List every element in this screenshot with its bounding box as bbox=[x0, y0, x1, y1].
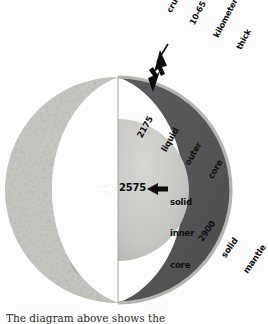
inner-core-value: 2575 bbox=[119, 183, 146, 194]
inner-core-label-line-1: solid bbox=[170, 197, 194, 207]
crust-label-line-4: thick bbox=[234, 5, 264, 51]
crust-label-line-3: kilometers bbox=[211, 0, 241, 39]
radius-arrow-icon bbox=[99, 183, 117, 195]
planet-sphere bbox=[5, 77, 231, 303]
inner-core-label-line-3: core bbox=[170, 260, 194, 270]
crust-arrow-upper-icon bbox=[154, 50, 167, 76]
mantle-label-line-2: solid bbox=[219, 227, 245, 259]
figure-caption: The diagram above shows the bbox=[6, 312, 165, 324]
outer-core-label-line-3: outer bbox=[183, 140, 204, 167]
outer-core-label-line-1: 2175 bbox=[136, 113, 157, 140]
mantle-label-line-3: mantle bbox=[242, 243, 268, 275]
outer-core-label-line-4: core bbox=[207, 154, 228, 181]
mantle-label-line-1: 2900 bbox=[197, 212, 223, 244]
outer-core-label-line-2: liquid bbox=[159, 126, 180, 153]
crust-label-line-2: 10-65 bbox=[188, 0, 218, 26]
crust-label-line-1: crust bbox=[165, 0, 195, 14]
